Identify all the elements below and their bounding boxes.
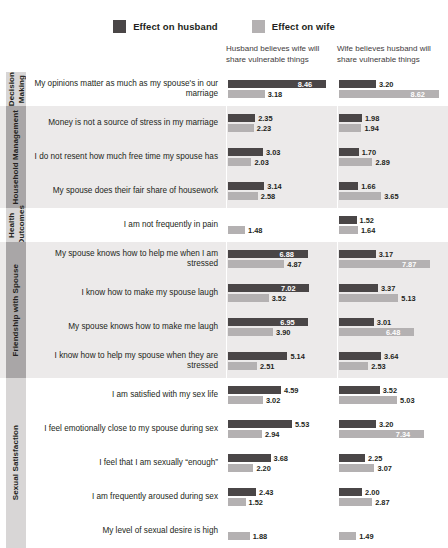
plot-cell-1: 5.532.94: [226, 412, 337, 446]
bar-value-label: 2.53: [371, 362, 385, 371]
bar-rect-husband: [228, 284, 309, 292]
bar-value-label: 1.52: [249, 498, 263, 507]
bar-wife: 5.03: [339, 396, 446, 404]
bar-value-label: 2.00: [365, 488, 379, 497]
bar-rect-husband: [339, 454, 365, 462]
row-label: I know how to make my spouse laugh: [26, 288, 218, 299]
bar-wife: 1.52: [228, 498, 335, 506]
row-label: Money is not a source of stress in my ma…: [26, 118, 218, 129]
bar-rect-husband: [339, 182, 358, 190]
bar-value-label: 3.64: [384, 352, 398, 361]
bar-rect-husband: [339, 148, 359, 156]
bar-group: 1.48: [228, 208, 335, 242]
bar-value-label: 2.20: [256, 464, 270, 473]
bar-value-label: 2.35: [258, 114, 272, 123]
bar-husband: 5.14: [228, 352, 335, 360]
bar-value-label: 6.48: [386, 328, 400, 337]
bar-wife: 2.94: [228, 430, 335, 438]
bar-value-label: 8.46: [298, 80, 312, 89]
bar-husband: 1.66: [339, 182, 446, 190]
legend-label: Effect on husband: [133, 21, 218, 32]
bar-rect-wife: [228, 124, 254, 132]
bar-group: 3.207.34: [339, 412, 446, 446]
bar-value-label: 2.94: [265, 430, 279, 439]
bar-value-label: 1.64: [361, 226, 375, 235]
bar-rect-husband: [339, 420, 376, 428]
chart-grid: Decision MakingMy opinions matter as muc…: [0, 72, 448, 548]
bar-value-label: 1.94: [364, 124, 378, 133]
bar-value-label: 3.52: [272, 294, 286, 303]
bar-group: 2.431.52: [228, 480, 335, 514]
bar-value-label: 6.88: [280, 250, 294, 259]
bar-value-label: 5.53: [295, 420, 309, 429]
bar-group: 3.032.03: [228, 140, 335, 174]
bar-value-label: 3.37: [381, 284, 395, 293]
bar-rect-wife: [339, 294, 398, 302]
bar-group: 6.884.87: [228, 242, 335, 276]
bar-group: 6.953.90: [228, 310, 335, 344]
bar-value-label: 7.87: [402, 260, 416, 269]
bar-wife: 3.52: [228, 294, 335, 302]
bar-rect-wife: [339, 430, 424, 438]
bar-wife: 1.64: [339, 226, 446, 234]
bar-value-label: 7.02: [281, 284, 295, 293]
bar-group: 2.002.87: [339, 480, 446, 514]
bar-rect-wife: [339, 464, 374, 472]
chart-row: I know how to help my spouse when they a…: [0, 344, 448, 378]
bar-wife: 3.90: [228, 328, 335, 336]
bar-value-label: 6.95: [280, 318, 294, 327]
plot-cell-2: 3.375.13: [337, 276, 448, 310]
bar-husband: 3.52: [339, 386, 446, 394]
plot-cell-2: 1.981.94: [337, 106, 448, 140]
bar-wife: 1.49: [339, 532, 446, 540]
bar-husband: 2.25: [339, 454, 446, 462]
bar-group: 1.702.89: [339, 140, 446, 174]
bar-wife: 4.87: [228, 260, 335, 268]
plot-cell-2: 1.521.64: [337, 208, 448, 242]
bar-value-label: 8.62: [411, 90, 425, 99]
plot-cell-1: 1.48: [226, 208, 337, 242]
bar-group: 1.49: [339, 514, 446, 548]
bar-wife: 2.20: [228, 464, 335, 472]
bar-group: 3.016.48: [339, 310, 446, 344]
bar-value-label: 1.66: [361, 182, 375, 191]
bar-husband: 3.20: [339, 420, 446, 428]
plot-cell-1: 3.032.03: [226, 140, 337, 174]
bar-rect-wife: [228, 226, 245, 234]
bar-value-label: 3.18: [268, 90, 282, 99]
bar-value-label: 7.34: [396, 430, 410, 439]
row-label: I am frequently aroused during sex: [26, 492, 218, 503]
bar-rect-husband: [339, 488, 362, 496]
chart-row: My spouse knows how to make me laugh6.95…: [0, 310, 448, 344]
bar-value-label: 2.43: [259, 488, 273, 497]
plot-cell-1: 1.88: [226, 514, 337, 548]
bar-value-label: 1.48: [248, 226, 262, 235]
bar-wife: 1.88: [228, 532, 335, 540]
bar-rect-husband: [339, 80, 376, 88]
bar-group: 2.352.23: [228, 106, 335, 140]
bar-wife: 7.87: [339, 260, 446, 268]
chart-row: Decision MakingMy opinions matter as muc…: [0, 72, 448, 106]
bar-husband: [228, 216, 335, 224]
row-label: My spouse does their fair share of house…: [26, 186, 218, 197]
category-label: Household Management: [11, 110, 21, 204]
bar-value-label: 3.68: [274, 454, 288, 463]
bar-husband: 5.53: [228, 420, 335, 428]
bar-rect-husband: [228, 182, 264, 190]
bar-wife: 2.58: [228, 192, 335, 200]
bar-wife: 3.65: [339, 192, 446, 200]
bar-wife: 3.07: [339, 464, 446, 472]
bar-rect-husband: [228, 250, 308, 258]
chart-row: My spouse does their fair share of house…: [0, 174, 448, 208]
bar-rect-wife: [339, 498, 372, 506]
bar-value-label: 3.07: [377, 464, 391, 473]
category-strip: Household Management: [6, 106, 26, 208]
bar-husband: 8.46: [228, 80, 335, 88]
bar-group: 3.142.58: [228, 174, 335, 208]
bar-rect-husband: [339, 216, 357, 224]
bar-value-label: 3.20: [379, 80, 393, 89]
bar-rect-husband: [228, 454, 271, 462]
category-label: Sexual Satisfaction: [11, 425, 21, 500]
bar-value-label: 3.03: [266, 148, 280, 157]
plot-cell-1: 6.884.87: [226, 242, 337, 276]
